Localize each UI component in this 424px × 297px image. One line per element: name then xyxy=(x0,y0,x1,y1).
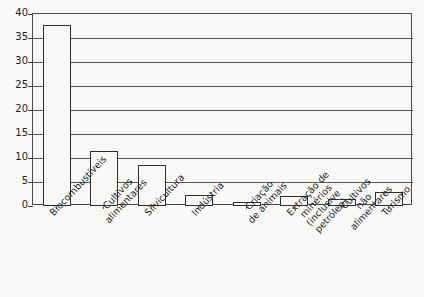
chart-screenshot: 4035302520151050 BiocombustíveisCultivos… xyxy=(0,0,424,297)
x-axis-labels: BiocombustíveisCultivosalimentaresSilvic… xyxy=(0,205,424,297)
